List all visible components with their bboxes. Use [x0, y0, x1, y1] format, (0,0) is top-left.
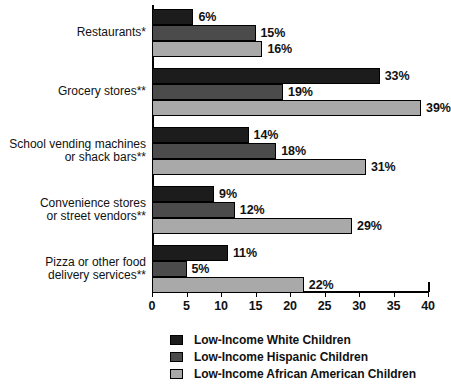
bar	[152, 159, 366, 175]
legend-item[interactable]: Low-Income Hispanic Children	[170, 348, 450, 365]
category-label: Restaurants*	[0, 26, 146, 40]
bar	[152, 84, 283, 100]
x-axis-tick-label: 30	[352, 299, 366, 313]
x-axis-tick-label: 5	[183, 299, 190, 313]
bar-group: 11%5%22%	[152, 245, 428, 293]
legend-item[interactable]: Low-Income African American Children	[170, 365, 450, 382]
bar	[152, 25, 256, 41]
bar-row: 39%	[152, 100, 428, 116]
bar-group: 6%15%16%	[152, 9, 428, 57]
category-label-line: Grocery stores**	[0, 85, 146, 99]
bar-row: 22%	[152, 277, 428, 293]
category-label-line: School vending machines	[0, 138, 146, 152]
category-label-line: or street vendors**	[0, 210, 146, 224]
bar-value-label: 31%	[371, 160, 396, 174]
bar-row: 33%	[152, 68, 428, 84]
category-label-line: Convenience stores	[0, 197, 146, 211]
bar	[152, 261, 187, 277]
bar-row: 6%	[152, 9, 428, 25]
bar-value-label: 11%	[233, 246, 257, 260]
bar	[152, 186, 214, 202]
legend-label: Low-Income Hispanic Children	[194, 350, 368, 364]
plot-area: 0510152025303540 6%15%16%33%19%39%14%18%…	[152, 5, 428, 291]
bar-row: 14%	[152, 127, 428, 143]
bar	[152, 143, 276, 159]
category-label: Convenience storesor street vendors**	[0, 197, 146, 224]
x-axis-tick-label: 35	[387, 299, 401, 313]
bar-value-label: 39%	[426, 101, 451, 115]
bar-value-label: 15%	[261, 26, 286, 40]
bar-row: 16%	[152, 41, 428, 57]
legend-swatch-icon	[170, 335, 183, 345]
legend-label: Low-Income African American Children	[194, 367, 416, 381]
bar-value-label: 14%	[254, 128, 279, 142]
bar-row: 12%	[152, 202, 428, 218]
bar-row: 11%	[152, 245, 428, 261]
legend-swatch-icon	[170, 369, 183, 379]
bar-group: 33%19%39%	[152, 68, 428, 116]
category-label: Grocery stores**	[0, 85, 146, 99]
category-label: Pizza or other fooddelivery services**	[0, 256, 146, 283]
bar-value-label: 6%	[198, 10, 216, 24]
bar-value-label: 22%	[309, 278, 334, 292]
bar-value-label: 9%	[219, 187, 237, 201]
bar-row: 5%	[152, 261, 428, 277]
x-axis-tick	[428, 291, 429, 297]
bar	[152, 218, 352, 234]
category-label-line: Pizza or other food	[0, 256, 146, 270]
bar-row: 9%	[152, 186, 428, 202]
bar	[152, 68, 380, 84]
bar-group: 14%18%31%	[152, 127, 428, 175]
bar	[152, 277, 304, 293]
bar-group: 9%12%29%	[152, 186, 428, 234]
x-axis-tick-label: 40	[421, 299, 435, 313]
bar	[152, 9, 193, 25]
legend-label: Low-Income White Children	[194, 333, 351, 347]
x-axis-tick-label: 25	[318, 299, 332, 313]
bar	[152, 245, 228, 261]
bar-row: 15%	[152, 25, 428, 41]
bar	[152, 202, 235, 218]
category-label: School vending machinesor shack bars**	[0, 138, 146, 165]
category-label-line: or shack bars**	[0, 151, 146, 165]
category-label-line: Restaurants*	[0, 26, 146, 40]
bar-row: 29%	[152, 218, 428, 234]
bar-value-label: 5%	[192, 262, 210, 276]
bar-value-label: 29%	[357, 219, 382, 233]
chart-legend: Low-Income White ChildrenLow-Income Hisp…	[170, 331, 450, 382]
bar	[152, 127, 249, 143]
bar	[152, 100, 421, 116]
legend-swatch-icon	[170, 352, 183, 362]
bar-row: 31%	[152, 159, 428, 175]
bar-row: 18%	[152, 143, 428, 159]
x-axis-tick-label: 15	[249, 299, 263, 313]
bar-value-label: 12%	[240, 203, 265, 217]
x-axis-tick-label: 0	[149, 299, 156, 313]
bar	[152, 41, 262, 57]
category-label-line: delivery services**	[0, 269, 146, 283]
x-axis-tick-label: 20	[283, 299, 297, 313]
bar-value-label: 18%	[281, 144, 306, 158]
bar-row: 19%	[152, 84, 428, 100]
x-axis-tick-label: 10	[214, 299, 228, 313]
bar-value-label: 33%	[385, 69, 410, 83]
bar-value-label: 19%	[288, 85, 313, 99]
bar-value-label: 16%	[267, 42, 292, 56]
legend-item[interactable]: Low-Income White Children	[170, 331, 450, 348]
